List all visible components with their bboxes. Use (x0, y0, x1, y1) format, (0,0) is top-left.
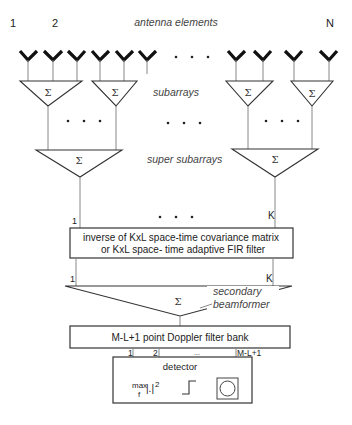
antenna-stems (28, 60, 329, 81)
antenna-elements-label: antenna elements (134, 16, 218, 28)
ellipsis-dot (265, 120, 268, 123)
subarrays-label: subarrays (153, 86, 200, 98)
subarray-summer: Σ (92, 81, 137, 106)
antenna-icon (20, 51, 37, 60)
element-label-1: 1 (10, 17, 16, 29)
filter-label-line2: or KxL space- time adaptive FIR filter (101, 244, 266, 255)
super-subarrays-label: super subarrays (147, 153, 223, 165)
ellipsis-dot (281, 120, 284, 123)
ellipsis-dot (297, 120, 300, 123)
channel-label-k: K (268, 210, 275, 221)
ellipsis-dot (199, 122, 202, 125)
sigma-icon: Σ (271, 154, 278, 165)
channel-label-1: 1 (72, 216, 77, 226)
output-label-1: 1 (70, 274, 75, 284)
super-subarray-summer: Σ (232, 149, 318, 177)
subarray-summer: Σ (291, 81, 333, 106)
diagram-svg: 1 2 antenna elements N Σ Σ (0, 0, 352, 425)
filter-label-line1: inverse of KxL space-time covariance mat… (83, 232, 279, 243)
antenna-icon (320, 51, 337, 60)
antenna-icon (92, 51, 109, 60)
ellipsis-dot (191, 56, 194, 59)
ellipsis-dot (167, 122, 170, 125)
secondary-label-line2: beamformer (213, 298, 270, 310)
ellipsis-dot (183, 122, 186, 125)
element-label-n: N (326, 17, 334, 29)
super-subarray-summer: Σ (36, 150, 122, 177)
sigma-icon: Σ (75, 155, 82, 166)
subarray-summer: Σ (20, 81, 82, 106)
sigma-icon: Σ (174, 296, 181, 307)
ellipsis-dot (207, 56, 210, 59)
ellipsis-dot (159, 216, 162, 219)
ellipsis-dot (191, 216, 194, 219)
svg-text:2: 2 (155, 380, 160, 389)
antenna-icon (68, 51, 85, 60)
svg-text:|.|: |.| (146, 383, 154, 394)
antenna-icon (139, 51, 156, 60)
secondary-label-line1: secondary (213, 285, 262, 297)
subarray-summer: Σ (226, 81, 273, 106)
sigma-icon: Σ (111, 87, 118, 98)
sigma-icon: Σ (44, 87, 51, 98)
detector-box: detector max f |.| 2 (113, 357, 252, 403)
doppler-label: M-L+1 point Doppler filter bank (111, 332, 249, 343)
antenna-icon (228, 51, 245, 60)
ellipsis-dot (175, 56, 178, 59)
antenna-icon (44, 51, 62, 60)
ellipsis-dot (67, 120, 70, 123)
antenna-icon (116, 51, 133, 60)
antenna-array (20, 51, 337, 60)
stap-architecture-diagram: 1 2 antenna elements N Σ Σ (0, 0, 352, 425)
antenna-icon (254, 51, 271, 60)
doppler-filter-bank: M-L+1 point Doppler filter bank (70, 326, 290, 348)
element-label-2: 2 (52, 17, 58, 29)
sigma-icon: Σ (308, 88, 315, 99)
antenna-icon (285, 51, 302, 60)
ellipsis-dot (99, 120, 102, 123)
subarray-outputs (48, 106, 312, 150)
sigma-icon: Σ (244, 87, 251, 98)
svg-text:max: max (132, 381, 147, 390)
ellipsis-dot (83, 120, 86, 123)
detector-label: detector (163, 361, 197, 372)
ellipsis-dot (175, 216, 178, 219)
space-time-filter-box: inverse of KxL space-time covariance mat… (70, 228, 293, 258)
bin-label-dots: ... (194, 349, 200, 356)
output-label-k: K (266, 273, 273, 284)
display-scope-icon (217, 378, 238, 399)
